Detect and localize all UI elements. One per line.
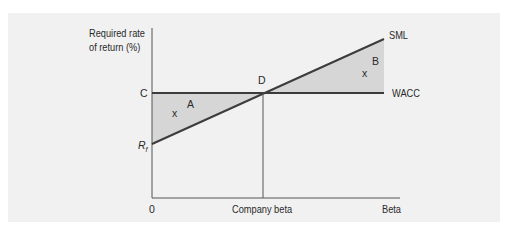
region-b-label: B bbox=[372, 55, 379, 67]
x-axis-label: Beta bbox=[382, 203, 401, 215]
sml-label: SML bbox=[389, 29, 408, 41]
rf-sub: f bbox=[146, 146, 148, 153]
region-b-marker: x bbox=[362, 67, 367, 79]
x-tick-company-beta: Company beta bbox=[232, 203, 292, 215]
c-label: C bbox=[140, 87, 148, 99]
d-label: D bbox=[258, 74, 266, 86]
x-tick-zero: 0 bbox=[149, 203, 155, 215]
region-a-label: A bbox=[187, 98, 194, 110]
rf-label: Rf bbox=[138, 139, 148, 156]
wacc-label: WACC bbox=[392, 87, 420, 99]
y-axis-label-line2: of return (%) bbox=[89, 41, 140, 53]
region-a-marker: x bbox=[172, 107, 177, 119]
y-axis-label-line1: Required rate bbox=[89, 27, 145, 39]
rf-main: R bbox=[138, 139, 146, 151]
chart-svg bbox=[0, 0, 513, 235]
